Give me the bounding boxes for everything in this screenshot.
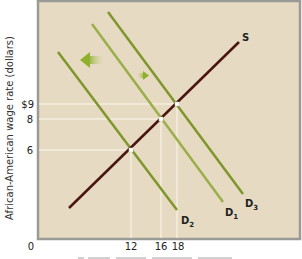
equilibrium-d2	[129, 148, 133, 152]
y-tick-6: 6	[27, 145, 33, 156]
wage-supply-demand-chart: S D2 D1 D3 $9 8 6 0 12 16 18 African-Ame…	[0, 0, 302, 259]
equilibrium-d3	[175, 102, 179, 106]
plot-frame	[38, 1, 300, 239]
x-tick-0: 0	[28, 241, 34, 252]
y-tick-8: 8	[27, 114, 33, 125]
x-tick-16: 16	[155, 241, 168, 252]
equilibrium-d1	[159, 117, 163, 121]
y-tick-9: $9	[21, 99, 34, 110]
x-tick-18: 18	[172, 241, 185, 252]
x-tick-12: 12	[125, 241, 138, 252]
supply-label: S	[242, 32, 249, 43]
y-axis-label: African-American wage rate (dollars)	[4, 36, 15, 220]
